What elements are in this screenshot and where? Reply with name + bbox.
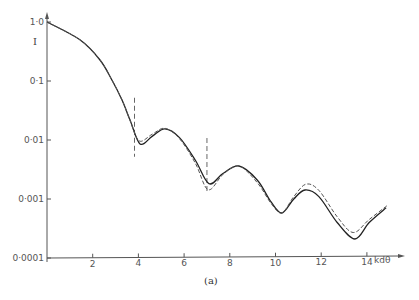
y-tick-label: 0·1 (30, 76, 44, 86)
y-tick-label: 0·0001 (13, 253, 45, 263)
x-tick-label: 12 (315, 257, 326, 267)
y-axis-arrow-icon (45, 12, 49, 19)
dashed-curve (47, 22, 387, 233)
x-tick-label: 8 (227, 258, 233, 268)
y-axis-label: I (33, 36, 37, 47)
x-tick-label: 6 (181, 258, 187, 268)
x-tick-label: 10 (270, 258, 282, 268)
diffraction-intensity-chart: 1·00·10·010·0010·0001 I 2468101214 kdθ (… (0, 0, 419, 300)
x-tick-label: 2 (90, 259, 96, 269)
y-axis: 1·00·10·010·0010·0001 I (13, 12, 52, 263)
x-axis-arrow-icon (398, 254, 405, 258)
x-axis-label: kdθ (374, 255, 391, 265)
y-tick-label: 0·001 (18, 194, 44, 204)
figure-caption: (a) (204, 275, 218, 286)
y-tick-label: 0·01 (24, 135, 44, 145)
x-axis: 2468101214 kdθ (47, 252, 405, 269)
solid-curve (47, 22, 386, 239)
x-tick-label: 14 (361, 257, 373, 267)
y-tick-label: 1·0 (30, 17, 45, 27)
x-tick-label: 4 (136, 258, 142, 268)
dashed-markers (135, 98, 207, 194)
curves (47, 22, 387, 239)
